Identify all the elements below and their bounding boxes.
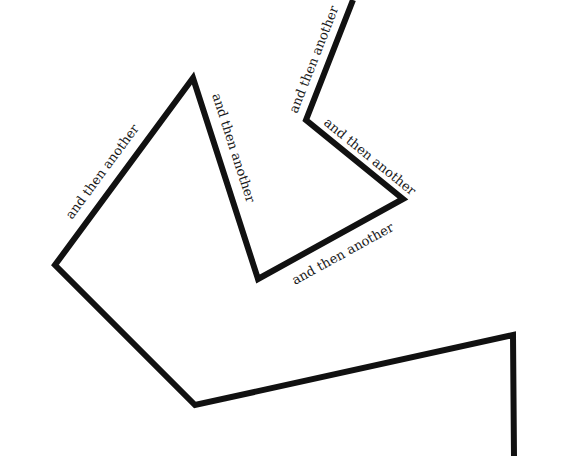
path-illustration: and then another and then another and th… — [0, 0, 563, 456]
zigzag-line — [55, 0, 514, 456]
segment-label-5: and then another — [62, 121, 142, 222]
segment-label-2: and then another — [321, 115, 419, 199]
